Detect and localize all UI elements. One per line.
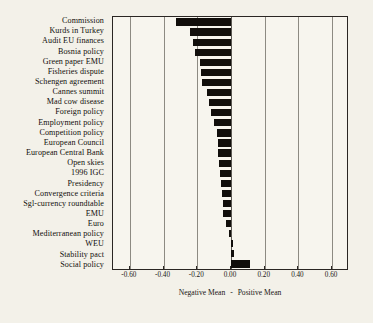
plot-area bbox=[112, 16, 348, 270]
category-label: Presidency bbox=[0, 179, 108, 189]
bar-row bbox=[113, 88, 347, 98]
tick-label: 0.20 bbox=[257, 271, 270, 279]
category-label: Kurds in Turkey bbox=[0, 26, 108, 36]
bar-row bbox=[113, 178, 347, 188]
bar-row bbox=[113, 219, 347, 229]
bar bbox=[223, 210, 231, 217]
bar-row bbox=[113, 148, 347, 158]
bar-row bbox=[113, 47, 347, 57]
bar-row bbox=[113, 138, 347, 148]
category-label: Audit EU finances bbox=[0, 36, 108, 46]
tick-label: -0.60 bbox=[121, 271, 136, 279]
bar bbox=[219, 160, 231, 167]
bar bbox=[176, 18, 231, 25]
tick-mark bbox=[331, 266, 332, 270]
bar-row bbox=[113, 229, 347, 239]
bar bbox=[209, 99, 231, 106]
category-label: Convergence criteria bbox=[0, 189, 108, 199]
bar bbox=[226, 220, 231, 227]
tick-mark bbox=[129, 266, 130, 270]
tick-mark bbox=[163, 266, 164, 270]
bar-row bbox=[113, 57, 347, 67]
category-label: Cannes summit bbox=[0, 87, 108, 97]
tick-mark bbox=[230, 266, 231, 270]
bar-row bbox=[113, 128, 347, 138]
category-label: Employment policy bbox=[0, 118, 108, 128]
x-axis-title: Negative Mean - Positive Mean bbox=[112, 288, 348, 297]
category-label: 1996 IGC bbox=[0, 168, 108, 178]
bar bbox=[211, 109, 231, 116]
bar bbox=[218, 139, 231, 146]
bar bbox=[217, 129, 231, 136]
x-axis-title-positive: Positive Mean bbox=[238, 288, 282, 297]
category-label: Social policy bbox=[0, 260, 108, 270]
x-axis-title-separator: - bbox=[227, 288, 236, 297]
tick-label: -0.40 bbox=[155, 271, 170, 279]
bar-row bbox=[113, 249, 347, 259]
horizontal-bar-chart: CommissionKurds in TurkeyAudit EU financ… bbox=[0, 0, 373, 323]
bar bbox=[221, 180, 231, 187]
bar-row bbox=[113, 98, 347, 108]
bar bbox=[190, 28, 231, 35]
bar bbox=[207, 89, 231, 96]
bar bbox=[214, 119, 231, 126]
category-label: European Council bbox=[0, 138, 108, 148]
bar bbox=[218, 149, 231, 156]
category-label: Foreign policy bbox=[0, 107, 108, 117]
category-label: Open skies bbox=[0, 158, 108, 168]
bar bbox=[223, 200, 231, 207]
bar-series bbox=[113, 17, 347, 269]
bar-row bbox=[113, 158, 347, 168]
category-label: Sgl-currency roundtable bbox=[0, 199, 108, 209]
bar-row bbox=[113, 198, 347, 208]
bar bbox=[231, 260, 250, 267]
tick-mark bbox=[196, 266, 197, 270]
bar bbox=[200, 59, 231, 66]
bar-row bbox=[113, 17, 347, 27]
category-label: Bosnia policy bbox=[0, 46, 108, 56]
bar-row bbox=[113, 239, 347, 249]
x-axis-title-negative: Negative Mean bbox=[179, 288, 226, 297]
bar-row bbox=[113, 168, 347, 178]
category-axis-labels: CommissionKurds in TurkeyAudit EU financ… bbox=[0, 16, 108, 270]
value-axis-ticks: -0.60-0.40-0.200.000.200.400.60 bbox=[112, 271, 348, 283]
bar bbox=[220, 170, 231, 177]
tick-label: 0.40 bbox=[291, 271, 304, 279]
category-label: Mediterranean policy bbox=[0, 229, 108, 239]
category-label: Euro bbox=[0, 219, 108, 229]
category-label: WEU bbox=[0, 239, 108, 249]
bar-row bbox=[113, 37, 347, 47]
bar bbox=[201, 69, 231, 76]
category-label: Mad cow disease bbox=[0, 97, 108, 107]
category-label: European Central Bank bbox=[0, 148, 108, 158]
bar bbox=[229, 230, 231, 237]
category-label: Stability pact bbox=[0, 250, 108, 260]
tick-mark bbox=[264, 266, 265, 270]
bar-row bbox=[113, 208, 347, 218]
bar bbox=[231, 250, 234, 257]
category-label: Schengen agreement bbox=[0, 77, 108, 87]
bar-row bbox=[113, 27, 347, 37]
bar-row bbox=[113, 188, 347, 198]
tick-label: -0.20 bbox=[189, 271, 204, 279]
bar bbox=[222, 190, 231, 197]
tick-label: 0.00 bbox=[224, 271, 237, 279]
bar-row bbox=[113, 118, 347, 128]
bar bbox=[193, 39, 231, 46]
category-label: Green paper EMU bbox=[0, 57, 108, 67]
bar bbox=[231, 240, 233, 247]
category-label: Fisheries dispute bbox=[0, 67, 108, 77]
category-label: Commission bbox=[0, 16, 108, 26]
bar bbox=[195, 49, 231, 56]
bar-row bbox=[113, 67, 347, 77]
tick-label: 0.60 bbox=[325, 271, 338, 279]
bar-row bbox=[113, 77, 347, 87]
bar bbox=[202, 79, 232, 86]
category-label: Competition policy bbox=[0, 128, 108, 138]
bar-row bbox=[113, 108, 347, 118]
category-label: EMU bbox=[0, 209, 108, 219]
tick-mark bbox=[297, 266, 298, 270]
